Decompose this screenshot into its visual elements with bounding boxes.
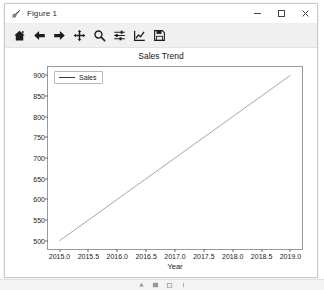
ytick-label: 800 [33,113,45,120]
window-controls [245,4,317,23]
ytick-label: 850 [33,92,45,99]
magnifier-icon [93,29,106,42]
back-button[interactable] [30,26,49,46]
maximize-icon[interactable] [269,4,293,23]
navigation-toolbar [5,24,317,48]
ytick-label: 700 [33,155,45,162]
xtick-label: 2015.0 [49,253,70,260]
xtick-label: 2016.0 [107,253,128,260]
start-icon[interactable] [138,282,145,288]
plot-axes: 500 550 600 650 700 750 800 850 900 2015… [47,66,303,250]
ytick-label: 900 [33,72,45,79]
ytick-label: 750 [33,134,45,141]
xaxis-label: Year [48,262,302,271]
home-button[interactable] [10,26,29,46]
figure-canvas[interactable]: Sales Trend 500 550 600 650 700 750 800 … [5,48,317,277]
close-icon[interactable] [293,4,317,23]
configure-subplots-button[interactable] [110,26,129,46]
xtick-label: 2019.0 [280,253,301,260]
matplotlib-figure-icon [10,7,23,20]
axis-curve-icon [133,29,146,42]
xtick-label: 2017.0 [164,253,185,260]
xtick-mark [232,249,233,252]
save-button[interactable] [150,26,169,46]
zoom-button[interactable] [90,26,109,46]
xtick-mark [261,249,262,252]
xtick-mark [59,249,60,252]
xtick-mark [175,249,176,252]
xtick-label: 2015.5 [78,253,99,260]
legend-label-sales: Sales [79,74,97,81]
app-icon[interactable] [180,282,187,288]
xtick-label: 2018.0 [222,253,243,260]
xtick-mark [290,249,291,252]
floppy-disk-icon [153,29,166,42]
search-icon[interactable] [152,282,159,288]
ytick-label: 500 [33,237,45,244]
xtick-mark [146,249,147,252]
move-arrows-icon [73,29,86,42]
sliders-icon [113,29,126,42]
window-titlebar[interactable]: Figure 1 [5,4,317,24]
home-icon [13,29,26,42]
folder-icon[interactable] [166,282,173,288]
pan-button[interactable] [70,26,89,46]
sales-line-series [48,67,302,249]
ytick-label: 650 [33,175,45,182]
figure-window: Figure 1 [4,3,318,278]
window-title: Figure 1 [27,9,57,18]
chart-title: Sales Trend [5,51,317,61]
desktop-taskbar[interactable] [0,279,324,290]
minimize-icon[interactable] [245,4,269,23]
xtick-mark [117,249,118,252]
chart-legend: Sales [54,71,103,84]
arrow-right-icon [53,29,66,42]
edit-axis-button[interactable] [130,26,149,46]
xtick-mark [88,249,89,252]
ytick-label: 550 [33,217,45,224]
forward-button[interactable] [50,26,69,46]
xtick-label: 2018.5 [251,253,272,260]
xtick-mark [203,249,204,252]
xtick-label: 2017.5 [193,253,214,260]
legend-swatch-sales [59,77,75,78]
arrow-left-icon [33,29,46,42]
xtick-label: 2016.5 [135,253,156,260]
ytick-label: 600 [33,196,45,203]
